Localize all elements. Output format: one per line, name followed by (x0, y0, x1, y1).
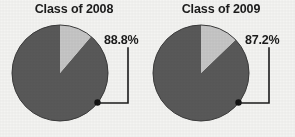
pie-panel-2008: Class of 2008 88.8% (0, 0, 148, 137)
figure-canvas: Class of 2008 88.8% Class of 2009 (0, 0, 295, 137)
callout-label-2008: 88.8% (104, 33, 138, 47)
callout-label-2009: 87.2% (245, 33, 279, 47)
pie-chart-2008 (0, 0, 148, 137)
pie-panel-2009: Class of 2009 87.2% (147, 0, 295, 137)
pie-chart-2009 (147, 0, 295, 137)
